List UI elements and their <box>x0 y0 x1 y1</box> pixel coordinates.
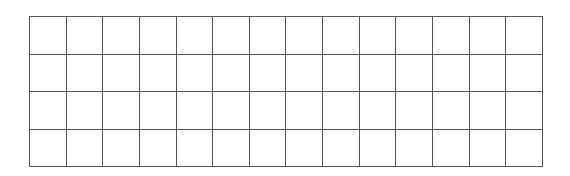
grid-cell <box>433 130 470 168</box>
grid-cell <box>360 17 397 55</box>
empty-grid <box>29 16 543 167</box>
grid-cell <box>396 55 433 93</box>
grid-cell <box>250 92 287 130</box>
grid-cell <box>470 55 507 93</box>
grid-cell <box>433 92 470 130</box>
grid-cell <box>396 130 433 168</box>
grid-cell <box>286 55 323 93</box>
grid-cell <box>360 92 397 130</box>
grid-cell <box>213 17 250 55</box>
grid-cell <box>286 130 323 168</box>
grid-cell <box>30 92 67 130</box>
grid-cell <box>213 130 250 168</box>
grid-cell <box>360 130 397 168</box>
grid-cell <box>250 17 287 55</box>
grid-cell <box>506 130 543 168</box>
grid-cell <box>213 92 250 130</box>
grid-cell <box>360 55 397 93</box>
grid-cell <box>286 17 323 55</box>
grid-cell <box>67 17 104 55</box>
grid-cell <box>67 130 104 168</box>
grid-cell <box>470 130 507 168</box>
grid-cell <box>396 92 433 130</box>
grid-cell <box>103 55 140 93</box>
grid-cell <box>470 17 507 55</box>
grid-cell <box>506 55 543 93</box>
grid-cell <box>433 55 470 93</box>
grid-cell <box>323 130 360 168</box>
grid-cell <box>67 92 104 130</box>
grid-cell <box>213 55 250 93</box>
grid-cell <box>103 17 140 55</box>
grid-cell <box>30 55 67 93</box>
grid-cell <box>103 130 140 168</box>
grid-cell <box>140 130 177 168</box>
grid-cell <box>30 17 67 55</box>
grid-cell <box>140 92 177 130</box>
grid-cell <box>506 17 543 55</box>
grid-cell <box>250 130 287 168</box>
grid-cell <box>470 92 507 130</box>
grid-cell <box>140 17 177 55</box>
grid-cell <box>323 17 360 55</box>
grid-cell <box>103 92 140 130</box>
grid-cell <box>506 92 543 130</box>
grid-cell <box>177 17 214 55</box>
grid-cell <box>433 17 470 55</box>
grid-cell <box>250 55 287 93</box>
grid-cell <box>67 55 104 93</box>
grid-cell <box>323 92 360 130</box>
grid-cell <box>396 17 433 55</box>
grid-cell <box>177 92 214 130</box>
grid-cell <box>286 92 323 130</box>
grid-cell <box>177 130 214 168</box>
grid-cell <box>30 130 67 168</box>
grid-cell <box>140 55 177 93</box>
grid-cell <box>177 55 214 93</box>
grid-cell <box>323 55 360 93</box>
